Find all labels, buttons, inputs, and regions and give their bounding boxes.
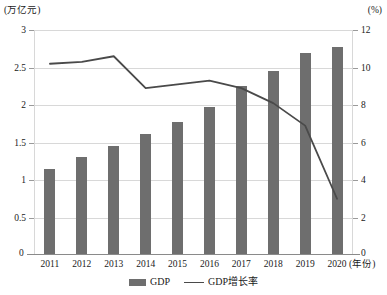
right-axis-tick-mark (353, 218, 358, 219)
legend-item-growth-rate[interactable]: GDP增长率 (184, 276, 258, 288)
x-tick-label-2012: 2012 (72, 258, 91, 270)
left-axis-tick-label: 3 (21, 25, 26, 35)
x-axis-line (27, 254, 360, 255)
left-axis-zero-label: 0 (19, 248, 24, 258)
x-tick-label-2015: 2015 (168, 258, 187, 270)
left-axis-tick-label: 0.5 (14, 213, 26, 223)
right-axis-tick-mark (353, 143, 358, 144)
right-axis-unit-caption: (%) (368, 5, 382, 16)
left-axis-tick-label: 1 (21, 175, 26, 185)
right-axis-tick-label: 8 (361, 100, 366, 110)
x-tick-label-2013: 2013 (104, 258, 123, 270)
line-series-growth-rate (34, 30, 353, 255)
right-axis-tick-mark (353, 68, 358, 69)
plot-area: 0.511.522.53 24681012 (34, 30, 353, 255)
left-axis-unit-caption: (万亿元) (4, 5, 40, 16)
right-axis-tick-label: 12 (361, 25, 371, 35)
left-axis-tick-label: 2.5 (14, 63, 26, 73)
x-axis-unit-caption: (年份) (349, 258, 375, 270)
legend-item-label: GDP (150, 276, 170, 288)
right-axis-tick-label: 10 (361, 63, 371, 73)
line-swatch-icon (184, 282, 204, 283)
right-axis-tick-label: 4 (361, 175, 366, 185)
x-tick-label-2018: 2018 (264, 258, 283, 270)
x-tick-label-2019: 2019 (296, 258, 315, 270)
x-tick-label-2020: 2020 (328, 258, 347, 270)
bar-swatch-icon (129, 279, 146, 286)
right-axis-tick-mark (353, 105, 358, 106)
x-tick-label-2014: 2014 (136, 258, 155, 270)
x-tick-label-2011: 2011 (41, 258, 60, 270)
x-axis-tick-labels: 2011201220132014201520162017201820192020 (34, 258, 353, 274)
left-axis-tick-label: 1.5 (14, 138, 26, 148)
x-tick-label-2017: 2017 (232, 258, 251, 270)
right-axis-zero-label: 0 (361, 248, 366, 258)
chart-legend: GDP GDP增长率 (0, 276, 387, 288)
x-tick-label-2016: 2016 (200, 258, 219, 270)
legend-item-gdp[interactable]: GDP (129, 276, 170, 288)
right-axis-tick-label: 2 (361, 213, 366, 223)
left-axis-tick-label: 2 (21, 100, 26, 110)
right-axis-tick-mark (353, 180, 358, 181)
right-axis-tick-label: 6 (361, 138, 366, 148)
legend-item-label: GDP增长率 (208, 276, 258, 288)
right-axis-tick-mark (353, 30, 358, 31)
gdp-and-growth-rate-chart: (万亿元) (%) 0.511.522.53 24681012 0 0 2011… (0, 0, 387, 295)
